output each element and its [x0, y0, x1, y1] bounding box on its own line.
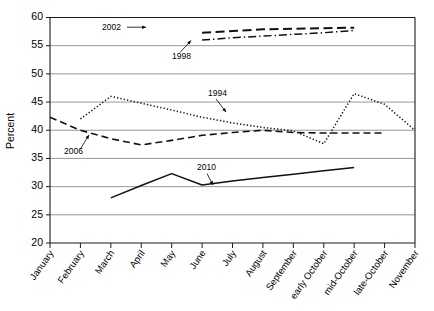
series-line-1994 [80, 94, 415, 144]
gridlines [50, 18, 415, 215]
x-tick-label: March [92, 248, 116, 276]
y-axis-title: Percent [4, 113, 16, 149]
x-tick-label: June [187, 248, 208, 271]
x-tick-label: August [243, 248, 269, 279]
y-tick-label: 50 [31, 67, 43, 79]
x-tick-label: April [127, 248, 147, 270]
x-tick-label: May [158, 248, 177, 269]
x-axis-ticks [50, 243, 415, 248]
y-tick-label: 60 [31, 10, 43, 22]
chart-container: 202530354045505560 JanuaryFebruaryMarchA… [0, 0, 434, 311]
y-tick-label: 20 [31, 236, 43, 248]
line-chart: 202530354045505560 JanuaryFebruaryMarchA… [0, 0, 434, 311]
series-line-2010 [111, 167, 354, 197]
x-tick-label: July [219, 248, 238, 268]
annotation-label-2006: 2006 [64, 146, 83, 156]
y-tick-label: 40 [31, 123, 43, 135]
annotation-label-2010: 2010 [197, 162, 216, 172]
x-axis-tick-labels: JanuaryFebruaryMarchAprilMayJuneJulyAugu… [27, 248, 420, 301]
series-annotations: 20021998199420062010 [64, 22, 227, 185]
series-line-1998 [202, 30, 354, 40]
data-series [50, 28, 415, 198]
x-tick-label: November [386, 248, 420, 290]
y-axis-ticks [46, 18, 50, 244]
x-tick-label: January [27, 248, 56, 282]
y-tick-label: 30 [31, 179, 43, 191]
y-axis-tick-labels: 202530354045505560 [31, 10, 43, 248]
y-tick-label: 45 [31, 95, 43, 107]
annotation-label-1998: 1998 [172, 51, 191, 61]
annotation-label-1994: 1994 [208, 88, 227, 98]
series-line-2006 [50, 117, 385, 145]
annotation-label-2002: 2002 [102, 22, 121, 32]
y-tick-label: 25 [31, 208, 43, 220]
y-tick-label: 35 [31, 151, 43, 163]
x-tick-label: February [55, 248, 86, 286]
y-tick-label: 55 [31, 38, 43, 50]
